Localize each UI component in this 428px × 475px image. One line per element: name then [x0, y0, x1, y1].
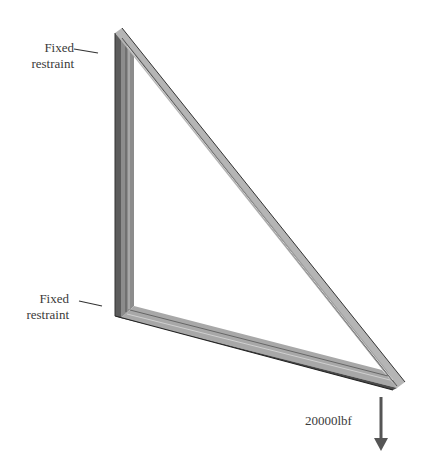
- down-arrow-icon: [374, 397, 388, 451]
- load-label: 20000lbf: [305, 413, 352, 429]
- bottom-restraint-label: Fixed restraint: [14, 291, 69, 323]
- top-leader-line: [74, 49, 98, 53]
- restraint-label-line1: Fixed: [20, 40, 74, 56]
- top-restraint-label: Fixed restraint: [20, 40, 74, 72]
- frame-diagram: Fixed restraint Fixed restraint 20000lbf: [0, 0, 428, 475]
- frame-beams: [115, 28, 405, 390]
- restraint-label-line2: restraint: [20, 56, 74, 72]
- bottom-leader-line: [79, 301, 102, 306]
- restraint-label-line1: Fixed: [14, 291, 69, 307]
- restraint-label-line2: restraint: [14, 307, 69, 323]
